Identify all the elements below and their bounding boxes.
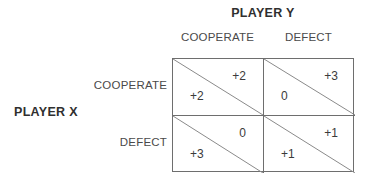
payoff-upper: +3 [324,70,338,82]
row-header-cooperate: COOPERATE [37,79,167,91]
payoff-upper: +2 [232,70,246,82]
diagonal-divider-icon [173,59,263,115]
payoff-lower: +1 [281,148,295,160]
column-header-defect: DEFECT [263,31,354,43]
payoff-matrix-diagram: PLAYER Y PLAYER X COOPERATE DEFECT COOPE… [0,0,367,183]
payoff-lower: +3 [190,148,204,160]
diagonal-divider-icon [173,116,263,173]
column-header-cooperate: COOPERATE [172,31,263,43]
payoff-lower: 0 [281,90,288,102]
player-y-title: PLAYER Y [172,6,354,20]
matrix-cell-defect-cooperate: 0 +3 [173,116,264,173]
matrix-cell-defect-defect: +1 +1 [264,116,355,173]
payoff-upper: +1 [324,127,338,139]
matrix-cell-cooperate-defect: +3 0 [264,59,355,116]
diagonal-divider-icon [264,59,355,115]
payoff-upper: 0 [239,127,246,139]
row-header-defect: DEFECT [37,136,167,148]
matrix: +2 +2 +3 0 0 +3 +1 [172,58,354,172]
matrix-cell-cooperate-cooperate: +2 +2 [173,59,264,116]
diagonal-divider-icon [264,116,355,173]
matrix-grid: +2 +2 +3 0 0 +3 +1 [172,58,354,172]
player-x-title: PLAYER X [14,105,78,119]
payoff-lower: +2 [190,90,204,102]
